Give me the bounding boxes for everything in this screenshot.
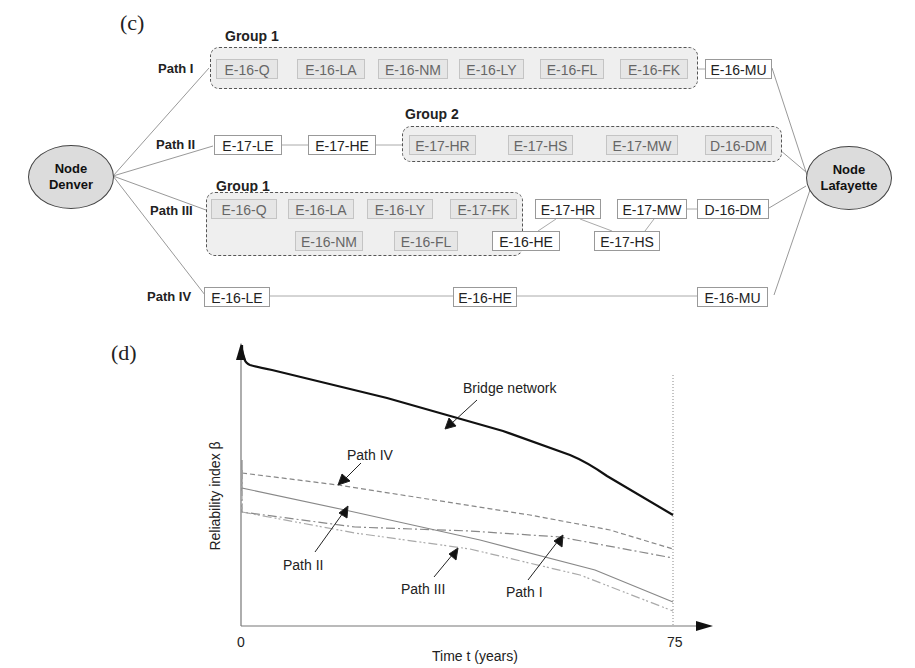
node-path1-2: E-16-LA xyxy=(297,59,365,79)
node-path4-2: E-16-HE xyxy=(453,287,517,307)
node-path1-1: E-16-Q xyxy=(216,59,278,79)
node-denver-line1: Node xyxy=(55,161,88,176)
panel-label-d: (d) xyxy=(111,340,137,366)
node-path2-6: D-16-DM xyxy=(705,135,772,155)
node-path3-2: E-16-LA xyxy=(288,199,354,219)
path-label-3: Path III xyxy=(150,203,193,218)
node-path4-1: E-16-LE xyxy=(204,287,270,307)
annotation-arrows xyxy=(315,400,563,580)
panel-label-c: (c) xyxy=(120,10,144,36)
series-path-iv xyxy=(242,473,673,549)
annotation-path-ii: Path II xyxy=(283,557,323,573)
node-path3-4: E-17-FK xyxy=(450,199,517,219)
x-tick-75: 75 xyxy=(667,634,683,650)
annotation-path-i: Path I xyxy=(506,584,543,600)
denver-connectors xyxy=(113,68,213,295)
node-path4-3: E-16-MU xyxy=(697,287,768,307)
node-path2-4: E-17-HS xyxy=(508,135,573,155)
figure-lines xyxy=(0,0,915,668)
node-path3-8: E-17-MW xyxy=(617,199,687,219)
node-path3-7: E-17-HR xyxy=(535,199,601,219)
x-tick-0: 0 xyxy=(237,634,245,650)
series-bridge-network xyxy=(242,345,673,515)
node-path2-3: E-17-HR xyxy=(409,135,476,155)
node-path3-9: D-16-DM xyxy=(697,199,769,219)
node-path1-5: E-16-FL xyxy=(540,59,604,79)
node-path2-2: E-17-HE xyxy=(308,135,376,155)
node-path3-5: E-16-NM xyxy=(295,231,363,251)
node-path3-6: E-16-FL xyxy=(394,231,458,251)
node-lafayette: NodeLafayette xyxy=(806,146,892,210)
node-lafayette-line1: Node xyxy=(833,162,866,177)
node-lafayette-line2: Lafayette xyxy=(820,178,877,193)
path-label-1: Path I xyxy=(158,61,193,76)
y-axis-label: Reliability index β xyxy=(207,431,223,561)
node-path3-1: E-16-Q xyxy=(211,199,277,219)
path-label-2: Path II xyxy=(156,137,195,152)
node-denver: NodeDenver xyxy=(28,145,114,209)
node-path3-11: E-17-HS xyxy=(594,231,660,251)
series-path-i xyxy=(242,470,673,558)
node-path1-3: E-16-NM xyxy=(378,59,448,79)
annotation-bridge-network: Bridge network xyxy=(463,380,556,396)
node-path1-7: E-16-MU xyxy=(705,59,772,79)
lafayette-connectors xyxy=(769,68,810,295)
node-path1-6: E-16-FK xyxy=(620,59,688,79)
node-path2-5: E-17-MW xyxy=(606,135,678,155)
group-title-path1: Group 1 xyxy=(225,28,279,44)
x-axis-label: Time t (years) xyxy=(432,648,518,664)
annotation-path-iii: Path III xyxy=(401,581,445,597)
series-path-iii xyxy=(242,470,673,611)
path-label-4: Path IV xyxy=(147,289,191,304)
node-path3-10: E-16-HE xyxy=(492,231,560,251)
node-path2-1: E-17-LE xyxy=(214,135,282,155)
node-path1-4: E-16-LY xyxy=(459,59,524,79)
annotation-path-iv: Path IV xyxy=(347,447,393,463)
node-denver-line2: Denver xyxy=(49,177,93,192)
group-title-path2: Group 2 xyxy=(405,106,459,122)
node-path3-3: E-16-LY xyxy=(367,199,433,219)
